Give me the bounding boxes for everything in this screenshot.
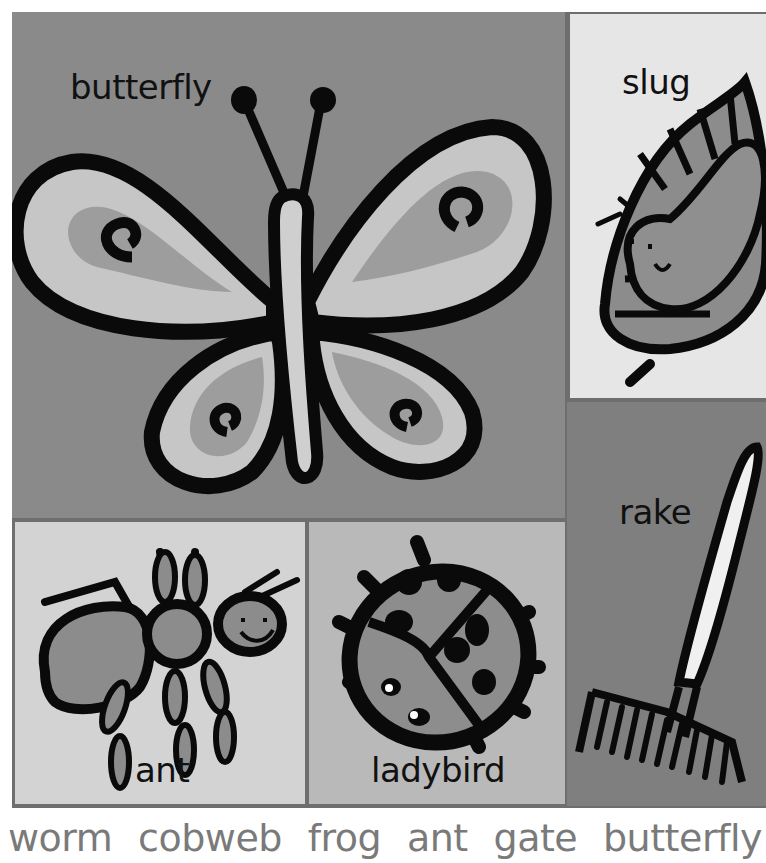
- ant-label: ant: [135, 750, 189, 790]
- word-worm[interactable]: worm: [8, 816, 112, 860]
- ant-panel[interactable]: ant: [15, 522, 305, 804]
- word-ant[interactable]: ant: [407, 816, 468, 860]
- ladybird-panel[interactable]: ladybird: [309, 522, 565, 804]
- rake-panel[interactable]: rake: [567, 402, 766, 806]
- picture-page-frame: butterfly slug rake: [12, 12, 766, 808]
- word-gate[interactable]: gate: [494, 816, 578, 860]
- word-butterfly[interactable]: butterfly: [603, 816, 762, 860]
- word-cobweb[interactable]: cobweb: [138, 816, 282, 860]
- rake-label: rake: [619, 492, 691, 532]
- ladybird-label: ladybird: [371, 750, 505, 790]
- word-list: worm cobweb frog ant gate butterfly: [0, 812, 766, 863]
- slug-panel[interactable]: slug: [570, 14, 766, 398]
- word-frog[interactable]: frog: [308, 816, 382, 860]
- butterfly-label: butterfly: [70, 67, 212, 107]
- slug-label: slug: [622, 62, 690, 102]
- butterfly-panel[interactable]: butterfly: [12, 12, 565, 518]
- rake-illustration: [567, 402, 766, 806]
